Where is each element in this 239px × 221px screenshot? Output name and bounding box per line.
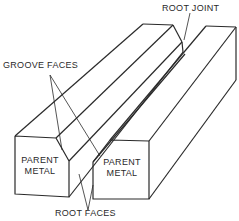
root-faces-label: ROOT FACES (55, 208, 116, 218)
root-joint-label: ROOT JOINT (162, 3, 219, 13)
right-parent-metal-label: PARENT METAL (100, 157, 144, 179)
leader-lines (50, 13, 190, 210)
joint-drawing (0, 0, 239, 221)
groove-faces-label: GROOVE FACES (3, 60, 78, 70)
left-parent-metal-label: PARENT METAL (20, 155, 60, 177)
